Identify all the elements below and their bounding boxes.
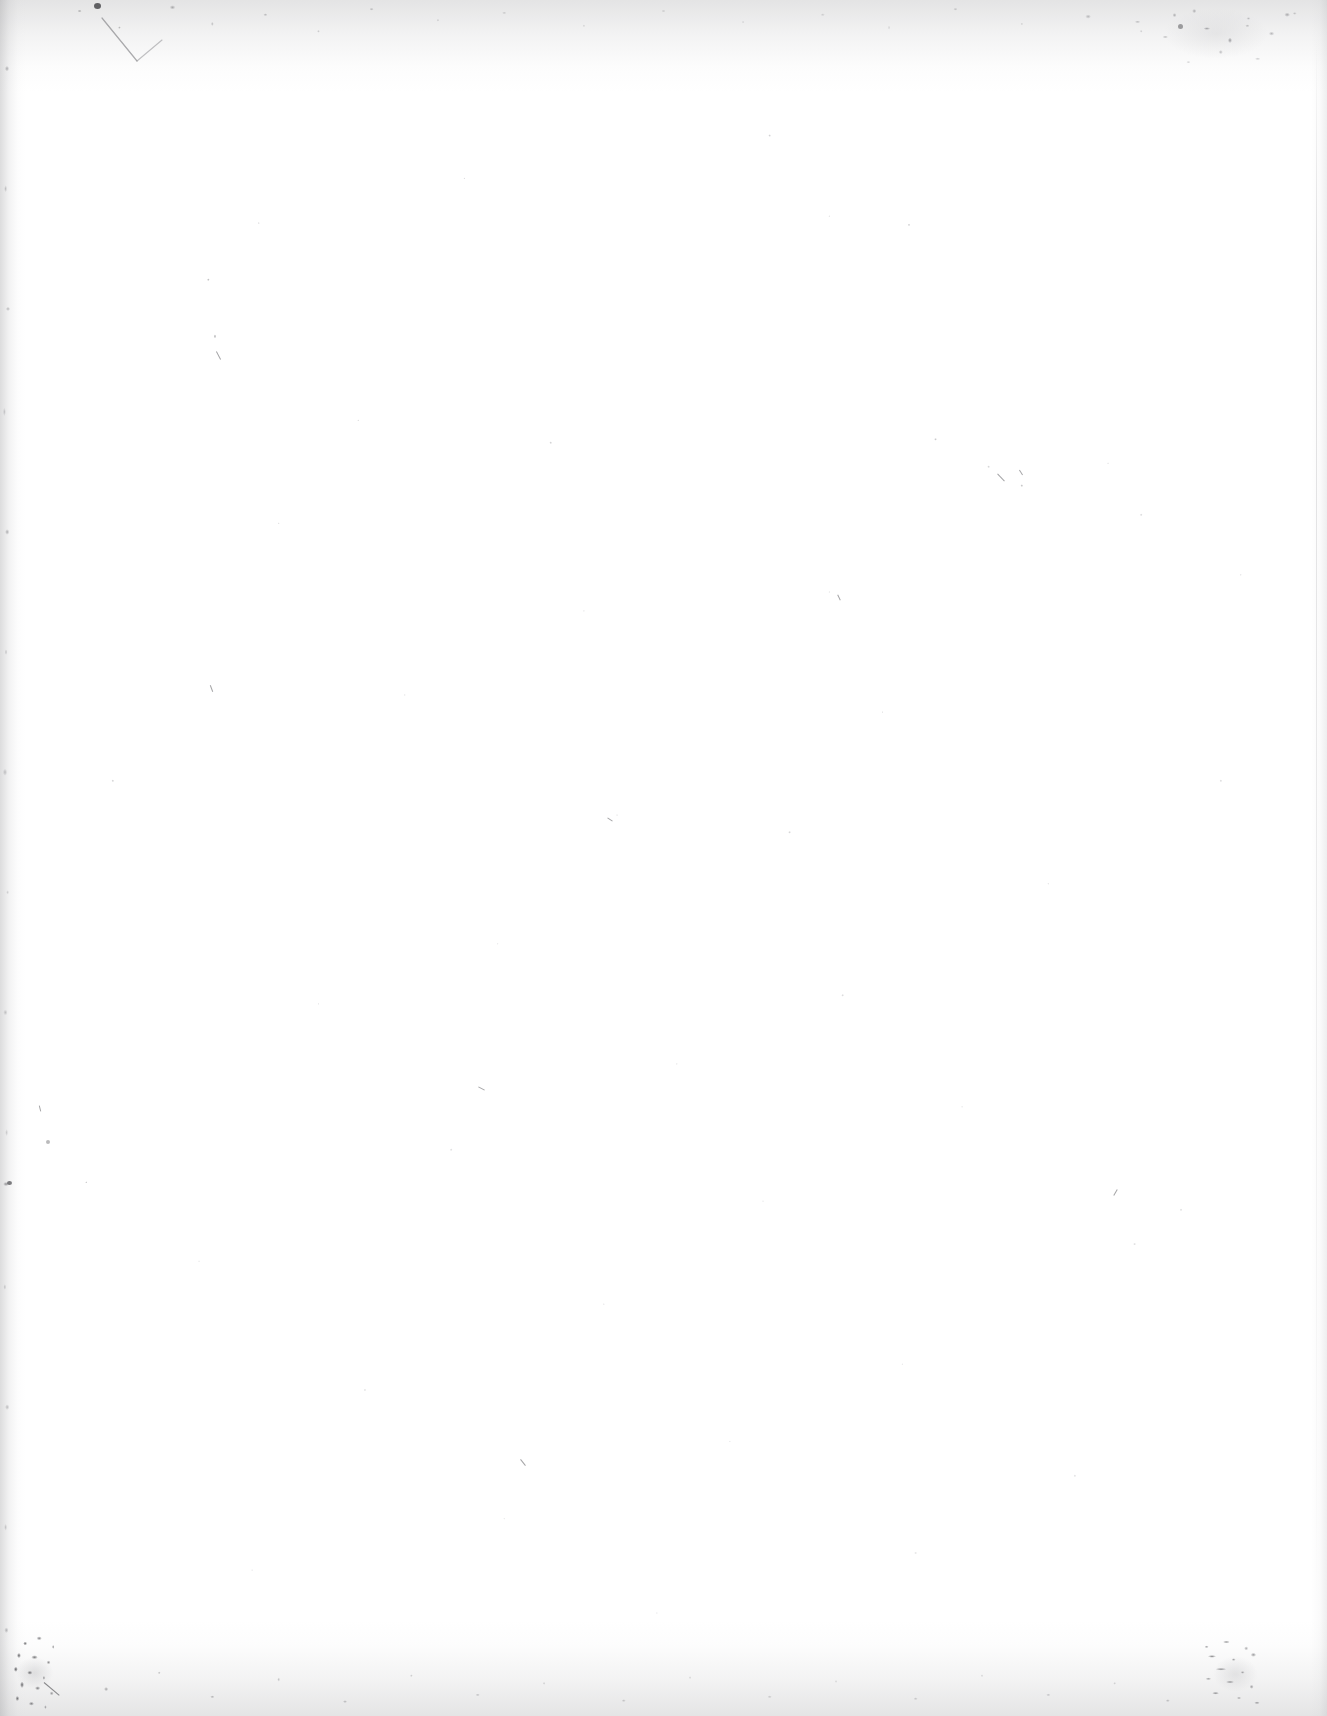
paper-surface (0, 0, 1327, 1716)
scanned-page (0, 0, 1327, 1716)
